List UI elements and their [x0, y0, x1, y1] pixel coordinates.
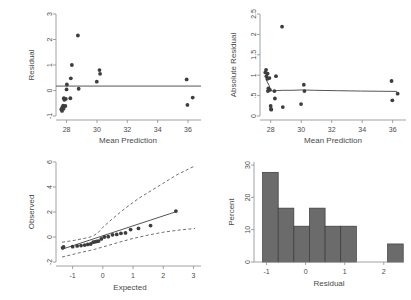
- qq-reference-line: [62, 211, 177, 249]
- data-point: [186, 103, 190, 107]
- data-point: [302, 83, 306, 87]
- data-point: [95, 80, 99, 84]
- xtick-label: 30: [297, 126, 305, 133]
- data-point: [62, 245, 66, 249]
- data-point: [102, 235, 106, 239]
- data-point: [149, 224, 153, 228]
- data-point-group: [263, 25, 399, 112]
- ytick-label: 1: [250, 73, 257, 77]
- data-point: [106, 235, 110, 239]
- data-point: [98, 72, 102, 76]
- trend-line-path: [266, 80, 397, 92]
- xtick-label: 32: [123, 126, 131, 133]
- ytick-label: 4: [46, 185, 53, 189]
- y-axis-group: -1 0 1 2 3 Residual: [27, 12, 56, 119]
- x-axis-title: Mean Prediction: [99, 136, 157, 145]
- ytick-label: 10: [244, 226, 251, 234]
- xtick-label: 3: [192, 272, 196, 279]
- data-point: [115, 233, 119, 237]
- data-point: [129, 228, 133, 232]
- data-point: [71, 245, 75, 249]
- data-point: [268, 76, 272, 80]
- x-axis-title: Expected: [113, 283, 146, 292]
- xtick-label: 0: [304, 268, 308, 275]
- ytick-label: 0: [46, 235, 53, 239]
- x-axis-title: Residual: [313, 279, 344, 288]
- ytick-label: 0: [46, 88, 53, 92]
- data-point: [303, 89, 307, 93]
- ytick-label: 2: [46, 210, 53, 214]
- data-point: [63, 104, 67, 108]
- data-point: [266, 72, 270, 76]
- data-point: [390, 98, 394, 102]
- data-point: [274, 74, 278, 78]
- histogram-bar: [309, 208, 325, 262]
- data-point: [281, 105, 285, 109]
- histogram-bar: [278, 208, 294, 262]
- y-axis-title: Absolute Residual: [229, 33, 238, 98]
- panel-residual-histogram: 0 10 20 30 Percent -1 0 1 2 Residual: [206, 150, 411, 300]
- ytick-label: -2: [46, 259, 53, 265]
- histogram-bar: [341, 226, 357, 262]
- data-point: [76, 34, 80, 38]
- data-point: [68, 96, 72, 100]
- histogram-bar: [294, 226, 310, 262]
- x-axis-group: 28 30 32 34 36 Mean Prediction: [260, 120, 406, 145]
- histogram-bar: [325, 226, 341, 262]
- data-point: [264, 68, 268, 72]
- data-point: [119, 231, 123, 235]
- lowess-smoother-line: [266, 80, 397, 92]
- xtick-label: 2: [161, 272, 165, 279]
- histogram-bar: [263, 172, 279, 262]
- x-axis-group: 28 30 32 34 36 Mean Prediction: [56, 120, 201, 145]
- data-point: [269, 108, 273, 112]
- residual-histogram: 0 10 20 30 Percent -1 0 1 2 Residual: [206, 150, 411, 300]
- data-point: [299, 102, 303, 106]
- ytick-label: 0: [244, 260, 251, 264]
- y-axis-title: Observed: [27, 195, 36, 230]
- xtick-label: 36: [389, 126, 397, 133]
- data-point: [79, 244, 83, 248]
- ytick-label: 0: [250, 114, 257, 118]
- trend-line-path: [62, 211, 177, 249]
- ytick-label: .5: [250, 93, 257, 99]
- xtick-label: 1: [131, 272, 135, 279]
- data-point: [390, 79, 394, 83]
- x-axis-group: -1 0 1 2 3 Expected: [56, 266, 201, 292]
- xtick-label: 1: [343, 268, 347, 275]
- ytick-label: 30: [244, 161, 251, 169]
- ytick-label: 6: [46, 160, 53, 164]
- ytick-label: 1: [46, 63, 53, 67]
- y-axis-group: 0 10 20 30 Percent: [227, 161, 254, 264]
- data-point: [70, 63, 74, 67]
- data-point: [137, 227, 141, 231]
- histogram-bar-group: [263, 172, 404, 262]
- data-point: [75, 244, 79, 248]
- data-point-group: [59, 34, 194, 113]
- x-axis-title: Mean Prediction: [304, 136, 362, 145]
- data-point: [98, 68, 102, 72]
- xtick-label: 34: [154, 126, 162, 133]
- xtick-label: 28: [267, 126, 275, 133]
- data-point: [273, 89, 277, 93]
- ytick-label: 2: [46, 37, 53, 41]
- y-axis-title: Residual: [27, 49, 36, 80]
- xtick-label: 28: [63, 126, 71, 133]
- data-point: [69, 76, 73, 80]
- xtick-label: 2: [382, 268, 386, 275]
- diagnostic-plot-figure: -1 0 1 2 3 Residual 28 30 32 34 36 Mean …: [0, 0, 411, 300]
- data-point: [268, 88, 272, 92]
- data-point: [174, 209, 178, 213]
- residual-scatter-plot: -1 0 1 2 3 Residual 28 30 32 34 36 Mean …: [0, 0, 206, 150]
- absolute-residual-scatter-plot: 0 .5 1 1.5 2 2.5 Absolute Residual 28 30…: [206, 0, 411, 150]
- data-point: [65, 87, 69, 91]
- xtick-label: 34: [358, 126, 366, 133]
- ytick-label: -1: [46, 113, 53, 119]
- data-point: [396, 92, 400, 96]
- x-axis-group: -1 0 1 2 Residual: [254, 262, 404, 288]
- panel-absolute-residual-vs-prediction: 0 .5 1 1.5 2 2.5 Absolute Residual 28 30…: [206, 0, 411, 150]
- data-point: [77, 87, 81, 91]
- data-point: [185, 78, 189, 82]
- data-point: [64, 97, 68, 101]
- xtick-label: -1: [69, 272, 75, 279]
